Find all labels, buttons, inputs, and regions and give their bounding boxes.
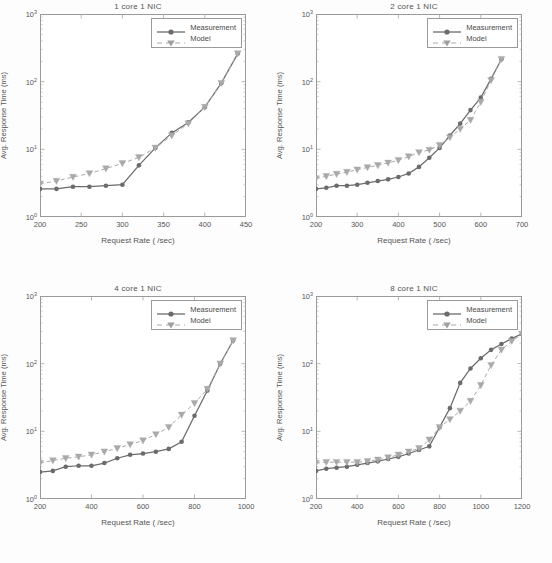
y-tick-label: 101 [26, 426, 37, 437]
y-axis-label: Avg. Response Time (ms) [0, 14, 10, 217]
legend-label-measurement: Measurement [190, 305, 236, 314]
legend-label-measurement: Measurement [190, 23, 236, 32]
x-axis-label: Request Rate ( /sec) [276, 236, 552, 245]
x-tick-label: 200 [34, 220, 47, 229]
legend-row-measurement: Measurement [432, 304, 512, 315]
x-tick-label: 300 [116, 220, 129, 229]
legend-label-model: Model [466, 316, 486, 325]
legend-key-measurement [156, 305, 186, 315]
x-axis-label: Request Rate ( /sec) [276, 518, 552, 527]
legend-key-model [156, 34, 186, 44]
x-tick-label: 600 [475, 220, 488, 229]
x-tick-label: 300 [351, 220, 364, 229]
legend-label-model: Model [190, 316, 210, 325]
x-tick-label: 800 [433, 502, 446, 511]
x-tick-label: 200 [34, 502, 47, 511]
legend-label-measurement: Measurement [466, 23, 512, 32]
x-tick-label: 400 [85, 502, 98, 511]
legend-key-model [432, 34, 462, 44]
y-axis-label: Avg. Response Time (ms) [274, 14, 286, 217]
x-tick-label: 1200 [514, 502, 531, 511]
legend-row-measurement: Measurement [156, 304, 236, 315]
legend: Measurement Model [427, 300, 518, 330]
x-tick-label: 600 [137, 502, 150, 511]
x-tick-label: 200 [310, 220, 323, 229]
chart-panel-4-core: 4 core 1 NIC Avg. Response Time (ms) 100… [0, 282, 276, 563]
panel-title: 4 core 1 NIC [0, 284, 276, 293]
x-tick-label: 400 [392, 220, 405, 229]
x-tick-label: 1000 [472, 502, 489, 511]
panel-title: 2 core 1 NIC [276, 2, 552, 11]
legend: Measurement Model [151, 300, 242, 330]
x-tick-label: 1000 [238, 502, 255, 511]
x-axis-label: Request Rate ( /sec) [0, 236, 276, 245]
y-tick-label: 102 [26, 358, 37, 369]
chart-panel-1-core: 1 core 1 NIC Avg. Response Time (ms) 100… [0, 0, 276, 281]
y-tick-label: 102 [302, 358, 313, 369]
legend: Measurement Model [151, 18, 242, 48]
legend-row-model: Model [432, 315, 512, 326]
y-tick-label: 103 [26, 291, 37, 302]
x-tick-label: 500 [433, 220, 446, 229]
legend-row-model: Model [432, 33, 512, 44]
legend-label-model: Model [190, 34, 210, 43]
legend-row-measurement: Measurement [432, 22, 512, 33]
y-tick-label: 101 [26, 144, 37, 155]
y-tick-label: 102 [26, 76, 37, 87]
figure-root: 1 core 1 NIC Avg. Response Time (ms) 100… [0, 0, 552, 563]
x-tick-label: 200 [310, 502, 323, 511]
x-tick-label: 600 [392, 502, 405, 511]
legend-key-model [156, 316, 186, 326]
legend-key-measurement [156, 23, 186, 33]
panel-title: 1 core 1 NIC [0, 2, 276, 11]
x-tick-label: 400 [199, 220, 212, 229]
y-axis-label: Avg. Response Time (ms) [0, 296, 10, 499]
x-tick-label: 400 [351, 502, 364, 511]
legend-key-measurement [432, 23, 462, 33]
panel-title: 8 core 1 NIC [276, 284, 552, 293]
legend-label-measurement: Measurement [466, 305, 512, 314]
plot-wrap: 100101102103 20040060080010001200 Measur… [316, 296, 522, 499]
chart-panel-2-core: 2 core 1 NIC Avg. Response Time (ms) 100… [276, 0, 552, 281]
plot-wrap: 100101102103 200250300350400450 Measurem… [40, 14, 246, 217]
x-tick-label: 800 [188, 502, 201, 511]
y-axis-label: Avg. Response Time (ms) [274, 296, 286, 499]
x-tick-label: 250 [75, 220, 88, 229]
y-tick-label: 101 [302, 144, 313, 155]
plot-wrap: 100101102103 2004006008001000 Measuremen… [40, 296, 246, 499]
x-tick-label: 450 [240, 220, 253, 229]
legend-row-measurement: Measurement [156, 22, 236, 33]
x-axis-label: Request Rate ( /sec) [0, 518, 276, 527]
y-tick-label: 103 [302, 9, 313, 20]
legend: Measurement Model [427, 18, 518, 48]
x-tick-label: 350 [157, 220, 170, 229]
y-tick-label: 101 [302, 426, 313, 437]
legend-key-model [432, 316, 462, 326]
chart-panel-8-core: 8 core 1 NIC Avg. Response Time (ms) 100… [276, 282, 552, 563]
plot-wrap: 100101102103 200300400500600700 Measurem… [316, 14, 522, 217]
legend-row-model: Model [156, 33, 236, 44]
legend-row-model: Model [156, 315, 236, 326]
y-tick-label: 103 [302, 291, 313, 302]
y-tick-label: 103 [26, 9, 37, 20]
y-tick-label: 102 [302, 76, 313, 87]
legend-label-model: Model [466, 34, 486, 43]
x-tick-label: 700 [516, 220, 529, 229]
legend-key-measurement [432, 305, 462, 315]
